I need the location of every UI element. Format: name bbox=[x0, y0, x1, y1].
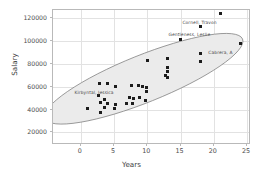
data-point[interactable] bbox=[128, 96, 131, 99]
data-point[interactable] bbox=[114, 103, 117, 106]
x-tick-label-0: 0 bbox=[68, 147, 92, 155]
data-point[interactable] bbox=[125, 102, 128, 105]
y-tick-mark-3 bbox=[50, 63, 52, 64]
data-point[interactable] bbox=[138, 96, 141, 99]
y-tick-label-5: 120000 bbox=[3, 14, 47, 21]
gridline-horizontal-0 bbox=[53, 132, 249, 133]
gridline-vertical-2 bbox=[147, 10, 148, 143]
data-point[interactable] bbox=[99, 101, 102, 104]
data-point[interactable] bbox=[132, 97, 135, 100]
point-annotation-label: Kirbyntal, Jessica bbox=[74, 90, 113, 95]
data-point[interactable] bbox=[166, 76, 169, 79]
x-tick-label-2: 10 bbox=[134, 147, 158, 155]
y-tick-mark-0 bbox=[50, 131, 52, 132]
data-point[interactable] bbox=[146, 59, 149, 62]
data-point[interactable] bbox=[103, 98, 106, 101]
gridline-vertical-3 bbox=[181, 10, 182, 143]
x-tick-mark-4 bbox=[213, 144, 214, 146]
gridline-vertical-4 bbox=[214, 10, 215, 143]
data-point[interactable] bbox=[98, 82, 101, 85]
data-point[interactable] bbox=[86, 107, 89, 110]
x-tick-mark-2 bbox=[146, 144, 147, 146]
x-tick-label-3: 15 bbox=[168, 147, 192, 155]
gridline-horizontal-2 bbox=[53, 87, 249, 88]
gridline-horizontal-5 bbox=[53, 18, 249, 19]
x-axis-title: Years bbox=[0, 160, 263, 169]
y-axis-title: Salary bbox=[10, 25, 19, 105]
x-tick-mark-3 bbox=[180, 144, 181, 146]
point-annotation-label: Cornell, Travon bbox=[182, 20, 216, 25]
data-point[interactable] bbox=[144, 99, 147, 102]
data-point[interactable] bbox=[145, 90, 148, 93]
point-annotation-label: Gentleness, Leslie bbox=[169, 32, 211, 37]
y-tick-label-0: 20000 bbox=[3, 128, 47, 135]
x-tick-label-5: 25 bbox=[234, 147, 258, 155]
data-point[interactable] bbox=[179, 38, 182, 41]
gridline-vertical-5 bbox=[247, 10, 248, 143]
data-point[interactable] bbox=[114, 85, 117, 88]
y-tick-mark-1 bbox=[50, 109, 52, 110]
x-tick-mark-0 bbox=[80, 144, 81, 146]
data-point[interactable] bbox=[166, 66, 169, 69]
gridline-horizontal-4 bbox=[53, 41, 249, 42]
x-tick-mark-5 bbox=[246, 144, 247, 146]
confidence-ellipse bbox=[53, 10, 249, 143]
data-point[interactable] bbox=[106, 82, 109, 85]
data-point[interactable] bbox=[113, 107, 116, 110]
scatter-plot-figure: Cornell, TravonGentleness, LeslieCabrera… bbox=[0, 0, 263, 176]
gridline-vertical-0 bbox=[81, 10, 82, 143]
data-point[interactable] bbox=[166, 70, 169, 73]
data-point[interactable] bbox=[106, 102, 109, 105]
data-point[interactable] bbox=[199, 52, 202, 55]
data-point[interactable] bbox=[131, 102, 134, 105]
data-point[interactable] bbox=[166, 57, 169, 60]
y-tick-mark-5 bbox=[50, 17, 52, 18]
data-point[interactable] bbox=[99, 111, 102, 114]
y-tick-mark-4 bbox=[50, 40, 52, 41]
x-tick-label-4: 20 bbox=[201, 147, 225, 155]
x-tick-label-1: 5 bbox=[101, 147, 125, 155]
data-point[interactable] bbox=[137, 84, 140, 87]
data-point[interactable] bbox=[130, 84, 133, 87]
data-point[interactable] bbox=[219, 12, 222, 15]
data-point[interactable] bbox=[103, 106, 106, 109]
gridline-horizontal-3 bbox=[53, 64, 249, 65]
x-tick-mark-1 bbox=[113, 144, 114, 146]
y-tick-label-1: 40000 bbox=[3, 105, 47, 112]
plot-area: Cornell, TravonGentleness, LeslieCabrera… bbox=[52, 9, 250, 144]
gridline-horizontal-1 bbox=[53, 110, 249, 111]
y-tick-mark-2 bbox=[50, 86, 52, 87]
data-point[interactable] bbox=[141, 85, 144, 88]
gridline-vertical-1 bbox=[114, 10, 115, 143]
point-annotation-label: Cabrera, A bbox=[208, 50, 232, 55]
data-point[interactable] bbox=[239, 42, 242, 45]
data-point[interactable] bbox=[199, 60, 202, 63]
